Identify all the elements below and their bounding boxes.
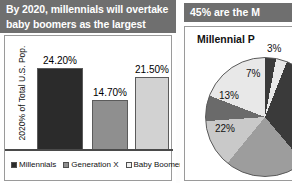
bar-chart-plot-area: 24.20% 14.70% 21.50% xyxy=(27,40,169,150)
legend-item-generation-x: Generation X xyxy=(63,160,118,169)
legend-item-millennials: Millennials xyxy=(11,160,56,169)
pie-chart-plot-frame: Millennial P 3% 7% 13% 22% xyxy=(184,26,292,181)
bar-chart-title: By 2020, millennials will overtake baby … xyxy=(0,0,176,33)
bar-rect xyxy=(135,77,169,150)
bar-chart-y-axis-label: 2020% of Total U.S. Pop. xyxy=(17,43,27,143)
pie-chart-wrap: 3% 7% 13% 22% xyxy=(205,57,292,177)
bar-chart-plot-frame: 2020% of Total U.S. Pop. 24.20% 14.70% 2… xyxy=(4,35,172,181)
legend-item-baby-boomers: Baby Boomers xyxy=(126,160,186,169)
pie-slice-label-22: 22% xyxy=(215,123,235,134)
pie-slice-label-7: 7% xyxy=(246,68,260,79)
bar-column-generation-x: 14.70% xyxy=(92,40,128,150)
pie-chart-panel: 45% are the M Millennial P 3% 7% 13% 22% xyxy=(180,0,292,183)
bar-rect xyxy=(37,68,83,150)
legend-swatch-icon xyxy=(63,162,69,168)
bar-chart-x-axis-line xyxy=(5,149,173,151)
pie-slice-label-3: 3% xyxy=(267,43,281,54)
bar-value-label: 21.50% xyxy=(135,64,169,75)
legend-swatch-icon xyxy=(126,162,132,168)
screenshot-root: By 2020, millennials will overtake baby … xyxy=(0,0,292,183)
bar-value-label: 14.70% xyxy=(93,87,127,98)
bar-column-millennials: 24.20% xyxy=(37,40,83,150)
bar-value-label: 24.20% xyxy=(43,55,77,66)
bar-column-baby-boomers: 21.50% xyxy=(135,40,169,150)
legend-label: Generation X xyxy=(71,160,118,169)
bar-rect xyxy=(92,100,128,150)
bar-chart-panel: By 2020, millennials will overtake baby … xyxy=(0,0,176,183)
legend-label: Millennials xyxy=(19,160,56,169)
legend-label: Baby Boomers xyxy=(134,160,186,169)
bar-chart-legend: Millennials Generation X Baby Boomers xyxy=(11,160,193,169)
pie-slice-label-13: 13% xyxy=(219,90,239,101)
pie-chart-title: 45% are the M xyxy=(184,3,292,22)
pie-chart-heading: Millennial P xyxy=(197,33,255,45)
legend-swatch-icon xyxy=(11,162,17,168)
